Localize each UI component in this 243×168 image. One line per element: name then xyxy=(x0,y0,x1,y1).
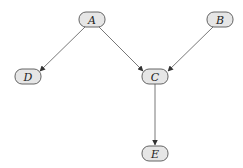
node-b: B xyxy=(207,12,233,27)
node-c: C xyxy=(142,69,168,84)
edge-b-to-c xyxy=(168,27,213,71)
edge-a-to-c xyxy=(99,27,143,71)
node-c-label: C xyxy=(151,71,160,84)
edge-a-to-d xyxy=(40,27,85,71)
node-d: D xyxy=(15,69,41,84)
node-b-label: B xyxy=(215,14,224,27)
node-a-label: A xyxy=(87,14,96,27)
node-a: A xyxy=(79,12,105,27)
dag-diagram: A B D C E xyxy=(0,0,243,168)
node-d-label: D xyxy=(23,71,33,84)
node-e: E xyxy=(142,146,168,161)
node-e-label: E xyxy=(150,148,159,161)
